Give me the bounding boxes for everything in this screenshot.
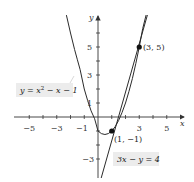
parabola-equation-label: y = x2 − x − 1 — [16, 76, 78, 97]
svg-text:3x − y = 4: 3x − y = 4 — [117, 155, 160, 164]
x-tick-label-neg5: −5 — [23, 124, 35, 133]
x-tick-label-3: 3 — [137, 124, 142, 133]
y-tick-label-neg3: −3 — [82, 155, 94, 164]
intersection-point-3-5 — [137, 44, 142, 49]
line-equation-label: 3x − y = 4 — [113, 152, 160, 166]
x-tick-label-neg3: −3 — [51, 124, 63, 133]
svg-text:y = x2 − x − 1: y = x2 − x − 1 — [19, 85, 78, 95]
graph: −5 −3 −1 3 5 5 3 1 −3 x y (3, 5) (1, −1)… — [0, 0, 194, 182]
x-axis-label: x — [180, 119, 185, 128]
point-label-1-neg1: (1, −1) — [114, 135, 142, 144]
intersection-point-1-neg1 — [109, 128, 114, 133]
y-tick-label-5: 5 — [87, 43, 92, 52]
y-axis-label: y — [88, 13, 94, 22]
x-tick-label-5: 5 — [164, 124, 169, 133]
y-tick-label-3: 3 — [87, 71, 92, 80]
point-label-3-5: (3, 5) — [143, 43, 165, 52]
x-tick-label-neg1: −1 — [76, 124, 88, 133]
